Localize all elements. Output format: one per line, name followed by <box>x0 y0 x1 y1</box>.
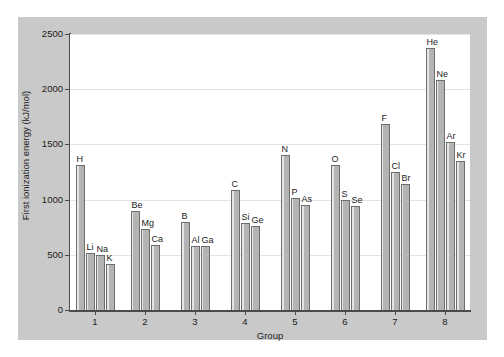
bar-label-mg: Mg <box>142 218 155 228</box>
x-tick-label-group-1: 1 <box>80 316 110 327</box>
bar-label-as: As <box>302 194 313 204</box>
bar-label-o: O <box>332 154 339 164</box>
bar-label-be: Be <box>132 200 143 210</box>
bar-ne[interactable] <box>436 80 445 310</box>
bar-o[interactable] <box>331 165 340 310</box>
bar-si[interactable] <box>241 223 250 310</box>
bar-cl[interactable] <box>391 172 400 310</box>
bar-label-s: S <box>342 189 348 199</box>
bar-ar[interactable] <box>446 142 455 310</box>
x-tick-label-group-8: 8 <box>430 316 460 327</box>
y-tick-mark <box>65 89 69 90</box>
bar-label-br: Br <box>402 173 411 183</box>
bar-label-h: H <box>77 154 84 164</box>
y-tick-mark <box>65 144 69 145</box>
bar-label-k: K <box>107 253 113 263</box>
x-axis-line <box>69 310 471 312</box>
y-tick-mark <box>65 255 69 256</box>
y-tick-mark <box>65 34 69 35</box>
bar-as[interactable] <box>301 205 310 310</box>
bar-kr[interactable] <box>456 161 465 310</box>
x-tick-label-group-4: 4 <box>230 316 260 327</box>
x-tick-mark <box>245 311 246 315</box>
bar-label-ne: Ne <box>437 69 449 79</box>
bar-se[interactable] <box>351 206 360 310</box>
bar-s[interactable] <box>341 200 350 310</box>
gridline <box>70 89 470 90</box>
x-tick-mark <box>195 311 196 315</box>
y-tick-mark <box>65 200 69 201</box>
bar-label-f: F <box>382 113 388 123</box>
y-tick-label-wrap: 2500 <box>0 29 63 39</box>
bar-label-se: Se <box>352 195 363 205</box>
bar-label-cl: Cl <box>392 161 401 171</box>
bar-c[interactable] <box>231 190 240 310</box>
gridline <box>70 200 470 201</box>
bar-label-ga: Ga <box>202 235 214 245</box>
bar-ge[interactable] <box>251 226 260 310</box>
bar-ca[interactable] <box>151 245 160 310</box>
y-axis-title: First ionization energy (kJ/mol) <box>20 56 31 256</box>
x-tick-mark <box>395 311 396 315</box>
bar-li[interactable] <box>86 253 95 310</box>
bar-f[interactable] <box>381 124 390 310</box>
figure-canvas: 05001000150020002500 First ionization en… <box>0 0 504 357</box>
y-tick-label-wrap: 0 <box>0 305 63 315</box>
x-tick-label-group-5: 5 <box>280 316 310 327</box>
bar-mg[interactable] <box>141 229 150 310</box>
y-tick-label-wrap: 2000 <box>0 84 63 94</box>
x-tick-mark <box>445 311 446 315</box>
bar-k[interactable] <box>106 264 115 310</box>
bar-al[interactable] <box>191 246 200 310</box>
bar-label-li: Li <box>87 242 94 252</box>
bar-n[interactable] <box>281 155 290 310</box>
bar-label-al: Al <box>192 235 200 245</box>
bar-label-c: C <box>232 179 239 189</box>
bar-na[interactable] <box>96 255 105 310</box>
plot-area: HLiNaKBeMgCaBAlGaCSiGeNPAsOSSeFClBrHeNeA… <box>70 34 470 310</box>
bar-b[interactable] <box>181 222 190 310</box>
y-tick-label: 2500 <box>17 29 63 39</box>
bar-label-n: N <box>282 144 289 154</box>
bar-br[interactable] <box>401 184 410 310</box>
bar-label-b: B <box>182 211 188 221</box>
bar-label-p: P <box>292 187 298 197</box>
y-tick-label: 0 <box>17 305 63 315</box>
x-tick-label-group-6: 6 <box>330 316 360 327</box>
bar-ga[interactable] <box>201 246 210 310</box>
x-tick-label-group-3: 3 <box>180 316 210 327</box>
gridline <box>70 144 470 145</box>
bar-label-ge: Ge <box>252 215 264 225</box>
y-tick-label-wrap: 500 <box>0 250 63 260</box>
x-tick-mark <box>345 311 346 315</box>
x-tick-label-group-7: 7 <box>380 316 410 327</box>
gridline <box>70 34 470 35</box>
bar-h[interactable] <box>76 165 85 310</box>
bar-be[interactable] <box>131 211 140 310</box>
bar-p[interactable] <box>291 198 300 310</box>
y-tick-label-wrap: 1000 <box>0 195 63 205</box>
x-axis-title: Group <box>70 330 470 341</box>
x-tick-label-group-2: 2 <box>130 316 160 327</box>
x-tick-mark <box>295 311 296 315</box>
bar-label-ca: Ca <box>152 234 164 244</box>
bar-label-he: He <box>427 37 439 47</box>
y-tick-mark <box>65 310 69 311</box>
x-tick-mark <box>145 311 146 315</box>
bar-label-si: Si <box>242 212 250 222</box>
y-tick-label-wrap: 1500 <box>0 139 63 149</box>
bar-label-kr: Kr <box>457 150 466 160</box>
bar-he[interactable] <box>426 48 435 310</box>
bar-label-ar: Ar <box>447 131 456 141</box>
x-tick-mark <box>95 311 96 315</box>
